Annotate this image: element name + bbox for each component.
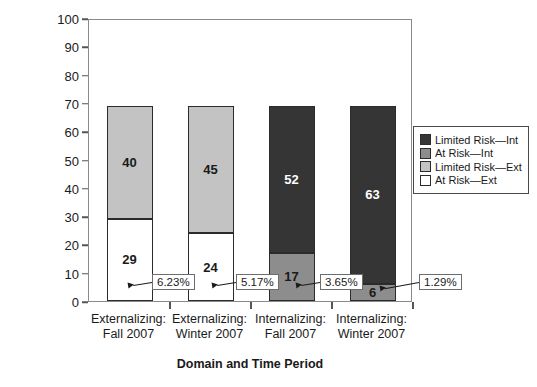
x-tick-mark xyxy=(250,302,252,309)
x-category-label: Externalizing:Winter 2007 xyxy=(163,312,256,342)
stacked-bar: 636 xyxy=(350,106,396,301)
y-tick-label: 80 xyxy=(37,68,79,83)
y-tick-label: 100 xyxy=(37,12,79,27)
percentage-callout: 1.29% xyxy=(419,274,462,290)
y-tick-label: 30 xyxy=(37,210,79,225)
x-tick-mark xyxy=(412,302,414,309)
bar-value-label: 24 xyxy=(203,260,217,275)
y-tick-label: 50 xyxy=(37,153,79,168)
bar-value-label: 45 xyxy=(203,162,217,177)
callout-arrow-head xyxy=(296,282,303,289)
y-tick-label: 10 xyxy=(37,266,79,281)
bar-value-label: 40 xyxy=(122,155,136,170)
callout-arrow-head xyxy=(128,282,135,289)
legend-label: Limited Risk—Ext xyxy=(435,161,522,173)
bar-segment-at-risk: 29 xyxy=(107,219,153,301)
percentage-callout: 5.17% xyxy=(236,274,279,290)
y-tick-label: 0 xyxy=(37,295,79,310)
chart-legend: Limited Risk—IntAt Risk—IntLimited Risk—… xyxy=(413,126,529,194)
x-category-label: Internalizing:Fall 2007 xyxy=(244,312,337,342)
bar-segment-limited-risk: 40 xyxy=(107,106,153,219)
legend-item: Limited Risk—Int xyxy=(420,134,522,146)
stacked-bar: 4029 xyxy=(107,106,153,301)
x-category-label-line: Winter 2007 xyxy=(325,327,418,342)
legend-swatch xyxy=(420,161,431,172)
bar-value-label: 63 xyxy=(365,187,379,202)
stacked-bar: 4524 xyxy=(188,106,234,301)
stacked-bar: 5217 xyxy=(269,106,315,301)
bar-segment-limited-risk: 52 xyxy=(269,106,315,253)
bar-value-label: 6 xyxy=(369,285,376,300)
legend-label: At Risk—Int xyxy=(435,147,493,159)
bar-segment-limited-risk: 45 xyxy=(188,106,234,233)
bar-value-label: 29 xyxy=(122,252,136,267)
callout-arrow-head xyxy=(380,285,387,292)
legend-item: Limited Risk—Ext xyxy=(420,161,522,173)
bar-segment-limited-risk: 63 xyxy=(350,106,396,284)
x-category-label-line: Winter 2007 xyxy=(163,327,256,342)
percentage-callout: 6.23% xyxy=(152,274,195,290)
legend-label: At Risk—Ext xyxy=(435,174,497,186)
legend-swatch xyxy=(420,134,431,145)
x-category-label: Externalizing:Fall 2007 xyxy=(82,312,175,342)
x-category-label-line: Internalizing: xyxy=(325,312,418,327)
chart-figure: Number of Students 100908070605040302010… xyxy=(0,0,537,387)
x-category-label-line: Internalizing: xyxy=(244,312,337,327)
x-category-label-line: Fall 2007 xyxy=(244,327,337,342)
percentage-callout: 3.65% xyxy=(320,274,363,290)
y-tick-label: 40 xyxy=(37,181,79,196)
x-category-label-line: Fall 2007 xyxy=(82,327,175,342)
x-category-label: Internalizing:Winter 2007 xyxy=(325,312,418,342)
y-tick-label: 70 xyxy=(37,96,79,111)
x-axis-title: Domain and Time Period xyxy=(88,357,412,371)
callout-arrow-head xyxy=(212,282,219,289)
legend-item: At Risk—Ext xyxy=(420,174,522,186)
y-tick-label: 90 xyxy=(37,40,79,55)
legend-label: Limited Risk—Int xyxy=(435,134,518,146)
x-category-label-line: Externalizing: xyxy=(82,312,175,327)
plot-area: 402945245217636 xyxy=(88,19,412,302)
bar-value-label: 52 xyxy=(284,172,298,187)
legend-swatch xyxy=(420,175,431,186)
x-tick-mark xyxy=(331,302,333,309)
y-tick-label: 60 xyxy=(37,125,79,140)
legend-swatch xyxy=(420,148,431,159)
y-tick-label: 20 xyxy=(37,238,79,253)
x-tick-mark xyxy=(169,302,171,309)
x-category-label-line: Externalizing: xyxy=(163,312,256,327)
bar-segment-at-risk: 24 xyxy=(188,233,234,301)
legend-item: At Risk—Int xyxy=(420,147,522,159)
